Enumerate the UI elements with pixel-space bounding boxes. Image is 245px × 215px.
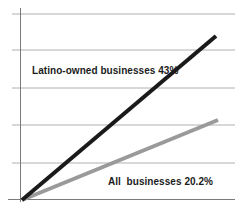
series-line-all-businesses (22, 120, 218, 200)
series-label-latino-owned-businesses: Latino-owned businesses 43% (32, 66, 178, 76)
gridlines-group (12, 14, 235, 163)
growth-comparison-line-chart: Latino-owned businesses 43% All business… (0, 0, 245, 215)
series-label-all-businesses: All businesses 20.2% (108, 177, 213, 187)
